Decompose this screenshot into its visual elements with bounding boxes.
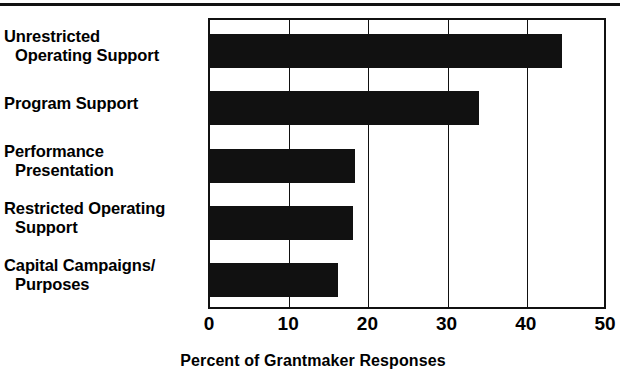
category-label-line: Presentation: [4, 161, 199, 180]
category-label-line: Performance: [4, 142, 104, 160]
x-tick-label-0: 0: [204, 313, 215, 335]
x-tick-label-20: 20: [357, 313, 378, 335]
category-label: Capital Campaigns/Purposes: [4, 256, 199, 294]
x-tick-label-10: 10: [278, 313, 299, 335]
bar-chart-figure: UnrestrictedOperating SupportProgram Sup…: [0, 0, 626, 384]
category-label-line: Capital Campaigns/: [4, 256, 155, 274]
category-label: PerformancePresentation: [4, 142, 199, 180]
category-label-line: Operating Support: [4, 46, 199, 65]
category-label-line: Support: [4, 218, 199, 237]
x-tick-label-30: 30: [436, 313, 457, 335]
x-axis-ticks: 01020304050: [0, 313, 626, 343]
bar: [210, 149, 355, 183]
category-label: UnrestrictedOperating Support: [4, 27, 199, 65]
bar: [210, 34, 562, 68]
bar: [210, 263, 338, 297]
category-label: Restricted OperatingSupport: [4, 199, 199, 237]
bar: [210, 206, 353, 240]
category-label-line: Restricted Operating: [4, 199, 165, 217]
category-labels: UnrestrictedOperating SupportProgram Sup…: [0, 18, 205, 308]
bar: [210, 91, 479, 125]
x-axis-title: Percent of Grantmaker Responses: [0, 352, 626, 370]
category-label-line: Purposes: [4, 275, 199, 294]
x-tick-label-40: 40: [515, 313, 536, 335]
category-label-line: Program Support: [4, 94, 199, 113]
top-horizontal-rule: [0, 3, 620, 6]
category-label-line: Unrestricted: [4, 27, 100, 45]
x-tick-label-50: 50: [594, 313, 615, 335]
plot-area: [208, 18, 606, 309]
category-label: Program Support: [4, 94, 199, 113]
